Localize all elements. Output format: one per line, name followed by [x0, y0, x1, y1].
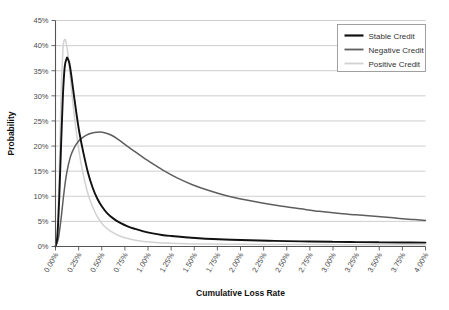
chart-container: 0%5%10%15%20%25%30%35%40%45% 0.00%0.25%0… [0, 0, 449, 310]
chart-legend[interactable]: Stable CreditNegative CreditPositive Cre… [338, 25, 426, 72]
legend-label-stable-credit[interactable]: Stable Credit [369, 32, 416, 41]
y-tick-label: 0% [38, 242, 49, 251]
y-tick-label: 45% [33, 16, 48, 25]
y-tick-label: 25% [33, 117, 48, 126]
y-tick-label: 20% [33, 142, 48, 151]
y-axis-title: Probability [6, 111, 16, 155]
y-tick-label: 30% [33, 92, 48, 101]
legend-label-positive-credit[interactable]: Positive Credit [369, 60, 421, 69]
x-axis-title: Cumulative Loss Rate [196, 288, 285, 298]
y-tick-label: 35% [33, 67, 48, 76]
y-tick-label: 10% [33, 192, 48, 201]
y-tick-label: 40% [33, 41, 48, 50]
probability-distribution-chart: 0%5%10%15%20%25%30%35%40%45% 0.00%0.25%0… [0, 0, 449, 310]
legend-label-negative-credit[interactable]: Negative Credit [369, 46, 425, 55]
y-tick-label: 15% [33, 167, 48, 176]
y-tick-label: 5% [38, 217, 49, 226]
